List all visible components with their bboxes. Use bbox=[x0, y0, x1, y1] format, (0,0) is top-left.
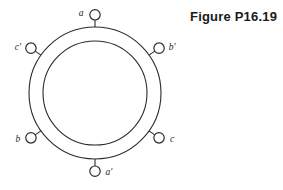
terminal-node-c bbox=[154, 133, 164, 143]
terminal-stem-c bbox=[149, 131, 155, 135]
inner-ring-circle bbox=[43, 41, 147, 145]
terminal-a: a bbox=[79, 8, 101, 27]
terminal-stem-b bbox=[35, 131, 41, 135]
outer-ring-circle bbox=[29, 27, 161, 159]
terminal-label-ap: a' bbox=[106, 167, 114, 177]
terminal-ap: a' bbox=[90, 159, 114, 177]
terminal-label-cp: c' bbox=[15, 42, 22, 52]
figure-page: ab'ca'bc' Figure P16.19 bbox=[0, 0, 283, 190]
terminal-label-bp: b' bbox=[169, 42, 177, 52]
terminal-stem-bp bbox=[149, 51, 155, 55]
ring-core-figure: ab'ca'bc' bbox=[0, 0, 283, 190]
ring-core-group bbox=[29, 27, 161, 159]
terminal-cp: c' bbox=[15, 42, 41, 55]
terminal-node-bp bbox=[154, 43, 164, 53]
terminal-bp: b' bbox=[149, 42, 176, 55]
terminal-node-cp bbox=[26, 43, 36, 53]
terminal-b: b bbox=[16, 131, 41, 144]
terminals-group: ab'ca'bc' bbox=[15, 8, 177, 177]
terminal-label-a: a bbox=[79, 8, 84, 18]
terminal-c: c bbox=[149, 131, 175, 144]
terminal-node-a bbox=[90, 10, 100, 20]
terminal-node-ap bbox=[90, 166, 100, 176]
terminal-node-b bbox=[26, 133, 36, 143]
terminal-stem-cp bbox=[35, 51, 41, 55]
terminal-label-b: b bbox=[16, 134, 21, 144]
figure-caption: Figure P16.19 bbox=[190, 9, 277, 24]
terminal-label-c: c bbox=[170, 134, 175, 144]
